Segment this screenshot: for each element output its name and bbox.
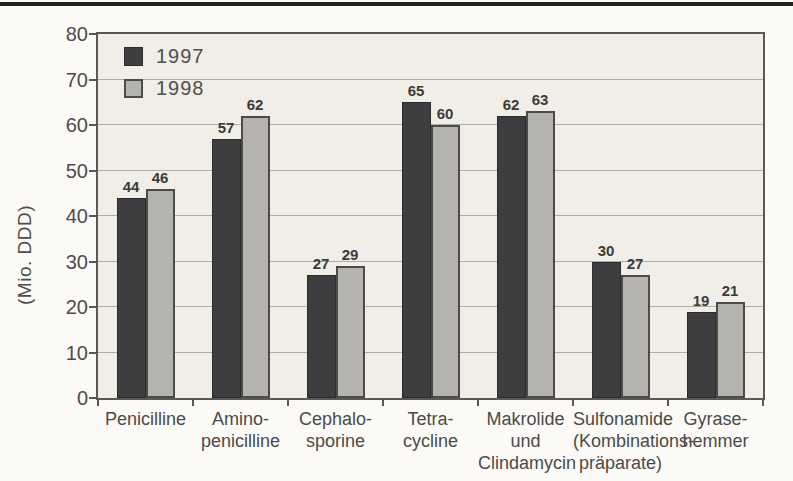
- category-label-2-line-1: Amino-: [193, 408, 288, 430]
- ytick-mark-70: [89, 79, 97, 81]
- ytick-mark-40: [89, 215, 97, 217]
- bar-1998-4: [431, 125, 460, 398]
- ytick-label-0: 0: [38, 387, 88, 409]
- xtick-mark-7: [762, 400, 764, 406]
- bar-1998-7: [716, 302, 745, 398]
- value-label-1998-2: 62: [232, 96, 279, 113]
- ytick-mark-50: [89, 170, 97, 172]
- category-label-5-line-2: und: [478, 430, 573, 452]
- bar-1997-6: [592, 262, 621, 399]
- category-label-3: Cephalo-sporine: [288, 408, 383, 452]
- bar-1997-1: [117, 198, 146, 398]
- ytick-label-60: 60: [38, 114, 88, 136]
- xtick-mark-0: [97, 400, 99, 406]
- category-label-6-line-1: Sulfonamide: [573, 408, 668, 430]
- xtick-mark-2: [287, 400, 289, 406]
- value-label-1998-6: 27: [612, 255, 659, 272]
- category-label-6-line-2: (Kombinations-: [573, 430, 668, 452]
- ytick-label-40: 40: [38, 205, 88, 227]
- category-label-7-line-1: Gyrase-: [668, 408, 763, 430]
- value-label-1998-5: 63: [517, 91, 564, 108]
- xtick-mark-5: [572, 400, 574, 406]
- legend-label-1998: 1998: [156, 77, 205, 100]
- value-label-1998-4: 60: [422, 105, 469, 122]
- category-label-4-line-2: cycline: [383, 430, 478, 452]
- ytick-mark-0: [89, 397, 97, 399]
- ytick-label-50: 50: [38, 160, 88, 182]
- category-label-4: Tetra-cycline: [383, 408, 478, 452]
- value-label-1998-7: 21: [707, 282, 754, 299]
- category-label-6-line-3: präparate): [573, 452, 668, 474]
- ytick-label-80: 80: [38, 23, 88, 45]
- legend-swatch-1998: [124, 79, 143, 98]
- value-label-1997-4: 65: [393, 82, 440, 99]
- legend: 19971998: [124, 45, 205, 109]
- category-label-5: MakrolideundClindamycin: [478, 408, 573, 474]
- category-label-6: Sulfonamide(Kombinations-präparate): [573, 408, 668, 474]
- category-label-4-line-1: Tetra-: [383, 408, 478, 430]
- legend-item-1997: 1997: [124, 45, 205, 68]
- xtick-mark-3: [382, 400, 384, 406]
- xtick-mark-4: [477, 400, 479, 406]
- category-label-1: Penicilline: [98, 408, 193, 430]
- category-label-3-line-1: Cephalo-: [288, 408, 383, 430]
- bar-chart-figure: (Mio. DDD) 4457276562301946622960632721 …: [0, 0, 793, 481]
- bar-1997-2: [212, 139, 241, 398]
- ytick-label-20: 20: [38, 296, 88, 318]
- ytick-label-70: 70: [38, 69, 88, 91]
- bar-1997-7: [687, 312, 716, 398]
- bar-1998-1: [146, 189, 175, 398]
- ytick-mark-60: [89, 124, 97, 126]
- category-label-7-line-2: hemmer: [668, 430, 763, 452]
- legend-label-1997: 1997: [156, 45, 205, 68]
- legend-swatch-1997: [124, 47, 143, 66]
- ytick-mark-80: [89, 33, 97, 35]
- xtick-mark-1: [192, 400, 194, 406]
- bar-1997-3: [307, 275, 336, 398]
- y-axis-title: (Mio. DDD): [14, 150, 38, 360]
- top-rule-divider: [0, 2, 793, 6]
- bar-1998-5: [526, 111, 555, 398]
- ytick-mark-20: [89, 306, 97, 308]
- category-label-1-line-1: Penicilline: [98, 408, 193, 430]
- value-label-1998-1: 46: [137, 169, 184, 186]
- bar-1997-5: [497, 116, 526, 398]
- value-label-1998-3: 29: [327, 246, 374, 263]
- category-label-7: Gyrase-hemmer: [668, 408, 763, 452]
- legend-item-1998: 1998: [124, 77, 205, 100]
- ytick-mark-10: [89, 352, 97, 354]
- ytick-label-10: 10: [38, 342, 88, 364]
- xtick-mark-6: [667, 400, 669, 406]
- bar-1998-2: [241, 116, 270, 398]
- category-label-5-line-3: Clindamycin: [478, 452, 573, 474]
- bar-1998-3: [336, 266, 365, 398]
- bar-1997-4: [402, 102, 431, 398]
- bar-1998-6: [621, 275, 650, 398]
- category-label-5-line-1: Makrolide: [478, 408, 573, 430]
- category-label-2-line-2: penicilline: [193, 430, 288, 452]
- plot-area: 4457276562301946622960632721 19971998: [96, 32, 765, 400]
- ytick-mark-30: [89, 261, 97, 263]
- ytick-label-30: 30: [38, 251, 88, 273]
- category-label-3-line-2: sporine: [288, 430, 383, 452]
- category-label-2: Amino-penicilline: [193, 408, 288, 452]
